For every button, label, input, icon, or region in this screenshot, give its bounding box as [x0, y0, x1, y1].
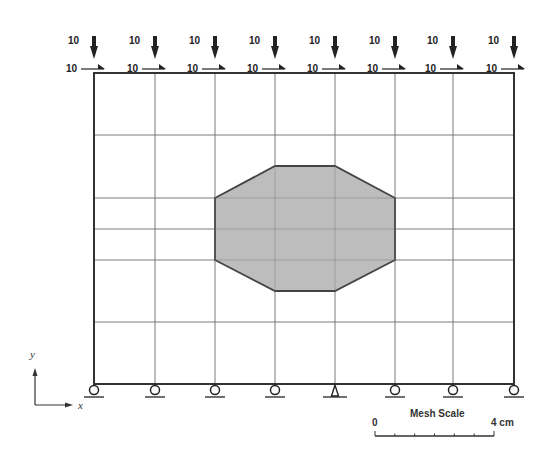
down-arrow-icon — [331, 46, 339, 59]
horizontal-load-label: 10 — [486, 63, 498, 74]
down-arrow-icon — [449, 46, 457, 59]
load-node: 1010 — [247, 35, 286, 74]
half-arrow-head-icon — [159, 64, 166, 69]
vertical-load-label: 10 — [189, 35, 201, 46]
half-arrow-head-icon — [457, 64, 464, 69]
roller-icon — [151, 386, 160, 395]
roller-icon — [510, 386, 519, 395]
roller-icon — [271, 386, 280, 395]
roller-icon — [211, 386, 220, 395]
roller-support — [265, 386, 285, 398]
load-node: 1010 — [66, 35, 105, 74]
horizontal-load-label: 10 — [367, 63, 379, 74]
mesh-scale-bar: Mesh Scale 0 4 cm — [372, 408, 514, 436]
horizontal-load-label: 10 — [307, 63, 319, 74]
vertical-load-label: 10 — [68, 35, 80, 46]
horizontal-load-label: 10 — [66, 63, 78, 74]
down-arrow-icon — [391, 46, 399, 59]
load-node: 1010 — [367, 35, 406, 74]
roller-support — [145, 386, 165, 398]
roller-support — [205, 386, 225, 398]
scale-end-label: 4 cm — [491, 417, 514, 428]
half-arrow-head-icon — [219, 64, 226, 69]
down-arrow-icon — [211, 46, 219, 59]
y-axis-label: y — [29, 348, 35, 360]
inclusion-region — [215, 166, 395, 291]
down-arrow-icon — [271, 46, 279, 59]
mesh-diagram: 10101010101010101010101010101010 y x Mes… — [0, 0, 546, 464]
roller-support — [84, 386, 104, 398]
load-node: 1010 — [187, 35, 226, 74]
roller-support — [385, 386, 405, 398]
vertical-load-label: 10 — [129, 35, 141, 46]
scale-start-label: 0 — [372, 417, 378, 428]
down-arrow-icon — [90, 46, 98, 59]
horizontal-load-label: 10 — [127, 63, 139, 74]
load-node: 1010 — [425, 35, 464, 74]
x-axis-label: x — [77, 399, 83, 411]
roller-support — [443, 386, 463, 398]
half-arrow-head-icon — [279, 64, 286, 69]
down-arrow-icon — [510, 46, 518, 59]
horizontal-load-label: 10 — [247, 63, 259, 74]
vertical-load-label: 10 — [249, 35, 261, 46]
load-arrows: 10101010101010101010101010101010 — [66, 35, 525, 74]
vertical-load-label: 10 — [427, 35, 439, 46]
scale-title: Mesh Scale — [410, 408, 465, 419]
pin-support — [323, 385, 347, 397]
half-arrow-head-icon — [339, 64, 346, 69]
boundary-supports — [84, 385, 524, 397]
down-arrow-icon — [151, 46, 159, 59]
half-arrow-head-icon — [98, 64, 105, 69]
pin-icon — [332, 385, 339, 396]
horizontal-load-label: 10 — [187, 63, 199, 74]
roller-icon — [391, 386, 400, 395]
vertical-load-label: 10 — [488, 35, 500, 46]
load-node: 1010 — [486, 35, 525, 74]
load-node: 1010 — [127, 35, 166, 74]
horizontal-load-label: 10 — [425, 63, 437, 74]
load-node: 1010 — [307, 35, 346, 74]
vertical-load-label: 10 — [369, 35, 381, 46]
vertical-load-label: 10 — [309, 35, 321, 46]
coordinate-axes: y x — [29, 348, 83, 411]
roller-support — [504, 386, 524, 398]
roller-icon — [90, 386, 99, 395]
half-arrow-head-icon — [399, 64, 406, 69]
y-arrow-icon — [33, 368, 38, 376]
x-arrow-icon — [65, 403, 73, 408]
half-arrow-head-icon — [518, 64, 525, 69]
roller-icon — [449, 386, 458, 395]
